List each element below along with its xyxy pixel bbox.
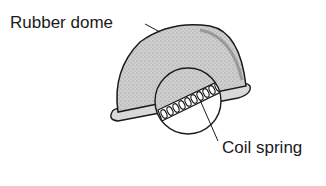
keyswitch-diagram: Rubber dome Coil spring — [0, 0, 326, 186]
rubber-dome-label: Rubber dome — [10, 14, 113, 31]
rubber-dome-leader-line — [145, 24, 160, 32]
coil-spring-label: Coil spring — [222, 139, 302, 156]
